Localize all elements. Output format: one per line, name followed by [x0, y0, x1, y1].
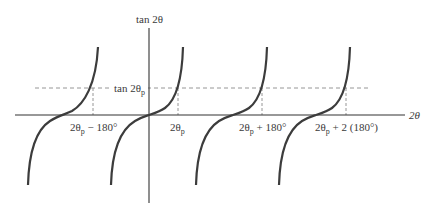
tick-label-4: 2θp + 2 (180°): [315, 121, 378, 136]
tick-label-3: 2θp + 180°: [239, 121, 286, 136]
tan-branch-2: [111, 47, 183, 185]
tan-branch-3: [196, 47, 267, 185]
x-axis-label: 2θ: [409, 109, 421, 121]
tan-branch-4: [279, 47, 350, 185]
tick-label-1: 2θp − 180°: [70, 121, 117, 136]
tan-branch-1: [28, 47, 98, 185]
tan-2theta-diagram: tan 2θ 2θ tan 2θp 2θp − 180° 2θp 2θp + 1…: [0, 0, 433, 216]
y-axis-label: tan 2θ: [136, 13, 163, 25]
tick-label-2: 2θp: [170, 121, 185, 136]
